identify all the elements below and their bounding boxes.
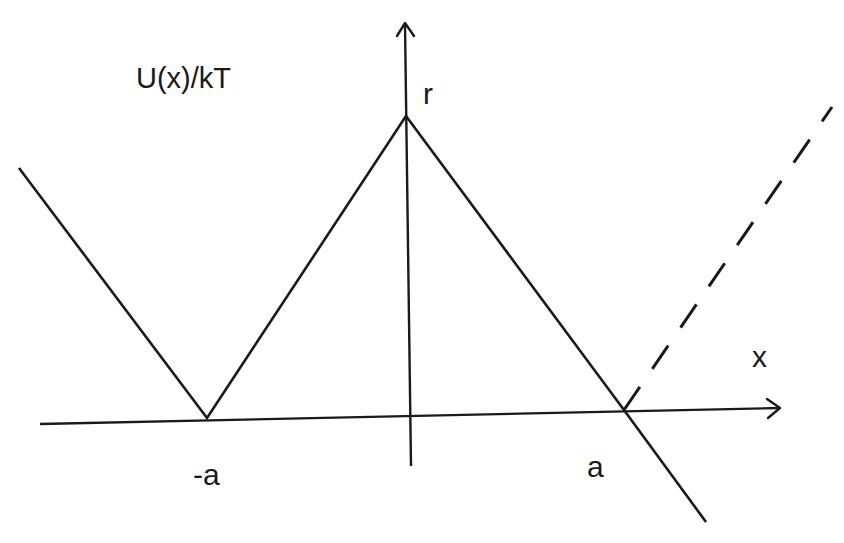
x-axis-label: x (752, 340, 767, 373)
y-axis-label: U(x)/kT (136, 62, 231, 94)
y-axis (397, 23, 414, 466)
peak-label: r (423, 77, 433, 110)
dashed-continuation (624, 107, 832, 410)
potential-diagram: U(x)/kT r x -a a (0, 0, 844, 543)
right-min-label: a (587, 450, 604, 483)
left-min-label: -a (193, 458, 220, 491)
